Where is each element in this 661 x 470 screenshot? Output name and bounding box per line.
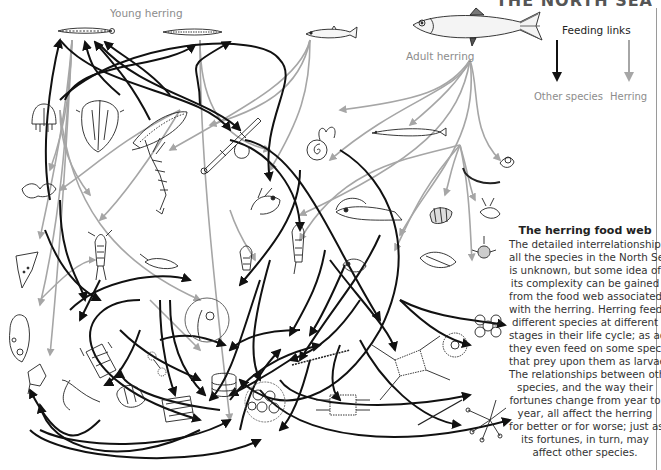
- feeding-link: [290, 250, 325, 335]
- info-line: for better or for worse; just as: [509, 420, 661, 433]
- mysid-icon: [140, 254, 178, 269]
- legend-label-other-species: Other species: [534, 91, 603, 102]
- chaetoceros-icon: [372, 336, 450, 400]
- feeding-link: [240, 170, 300, 285]
- herring-link: [300, 60, 470, 215]
- small-shrimp-icon: [480, 198, 500, 218]
- info-line: with the herring. Herring feed on: [509, 303, 661, 316]
- feeding-link: [330, 260, 395, 350]
- feeding-link: [280, 360, 310, 430]
- info-title: The herring food web: [509, 224, 661, 238]
- adult-herring-icon: [413, 8, 542, 46]
- ceratium-icon: [16, 252, 38, 288]
- juvenile-herring-icon: [306, 26, 357, 38]
- info-line: The detailed interrelationship of: [509, 238, 661, 251]
- crab-larva-icon: [472, 236, 496, 258]
- comb-jelly-icon: [76, 100, 124, 152]
- larval-creature-icon: [500, 157, 514, 167]
- asterionella-icon: [466, 400, 506, 442]
- feeding-link: [160, 300, 175, 395]
- herring-link: [470, 60, 500, 160]
- info-line: is unknown, but some idea of: [509, 264, 661, 277]
- adult-herring-label: Adult herring: [406, 50, 475, 62]
- herring-link: [200, 40, 230, 420]
- legend-label-herring: Herring: [610, 91, 647, 102]
- spine-icon: [62, 380, 100, 410]
- herring-link: [40, 40, 72, 305]
- info-line: year, all affect the herring: [509, 407, 661, 420]
- info-box: The herring food web The detailed interr…: [509, 224, 661, 459]
- noctiluca-icon: [10, 315, 30, 362]
- amphipod-icon: [430, 207, 452, 224]
- herring-link: [340, 60, 470, 110]
- copepod-icon: [292, 225, 304, 275]
- info-line: The relationships between other: [509, 368, 661, 381]
- herring-link: [200, 40, 270, 150]
- info-line: stages in their life cycle; as adults: [509, 329, 661, 342]
- feeding-link: [65, 45, 195, 100]
- info-line: species, and the way their: [509, 381, 661, 394]
- radiolarian-icon: [185, 298, 229, 342]
- herring-link: [330, 60, 470, 160]
- info-line: that prey upon them as larvae.: [509, 355, 661, 368]
- young-herring-larva-1-icon: [58, 28, 115, 34]
- info-line: from the food web associated: [509, 290, 661, 303]
- young-herring-label: Young herring: [110, 7, 183, 19]
- sand-eel-icon: [372, 128, 446, 136]
- feeding-link: [60, 44, 286, 180]
- herring-link: [230, 210, 255, 260]
- herring-link: [460, 145, 472, 260]
- copepod-icon: [88, 230, 112, 280]
- copepod-icon: [240, 246, 252, 270]
- mysid-icon: [251, 188, 280, 214]
- info-line: affect other species.: [509, 446, 661, 459]
- other-species-links: [30, 40, 510, 458]
- info-line: its complexity can be gained: [509, 277, 661, 290]
- herring-link: [100, 110, 180, 220]
- medusa-icon: [32, 104, 56, 132]
- info-line: different species at different: [509, 316, 661, 329]
- herring-link: [300, 145, 460, 240]
- info-line: its fortunes, in turn, may: [509, 433, 661, 446]
- legend-title: Feeding links: [562, 24, 631, 36]
- info-line: fortunes change from year to: [509, 394, 661, 407]
- feeding-link: [90, 300, 200, 420]
- dinoflagellate-icon: [28, 364, 46, 394]
- shrimp-icon: [145, 138, 168, 214]
- feeding-link: [400, 300, 470, 345]
- pteropod-icon: [307, 127, 335, 160]
- feeding-link: [253, 260, 270, 380]
- feeding-link: [60, 200, 85, 300]
- info-line: all the species in the North Sea: [509, 251, 661, 264]
- young-herring-larva-2-icon: [163, 29, 222, 35]
- coccolith-cluster-icon: [245, 382, 285, 422]
- flower-colony-icon: [475, 315, 501, 337]
- info-line: they even feed on some species: [509, 342, 661, 355]
- feeding-link: [300, 235, 380, 360]
- info-body: The detailed interrelationship ofall the…: [509, 238, 661, 459]
- herring-link: [395, 145, 460, 250]
- copepod-icon: [420, 252, 456, 267]
- herring-link: [210, 40, 310, 125]
- feeding-link: [280, 380, 470, 405]
- cladoceran-icon: [343, 259, 366, 272]
- feeding-link: [360, 340, 460, 425]
